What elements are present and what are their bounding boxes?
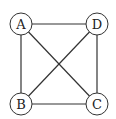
node-d-label: D [92,17,102,32]
node-c-label: C [92,97,102,112]
node-b-label: B [16,97,26,112]
node-c: C [86,93,108,115]
edges [21,24,97,104]
node-b: B [10,93,32,115]
node-a-label: A [15,17,26,32]
node-a: A [10,13,32,35]
node-d: D [86,13,108,35]
complete-graph-diagram: A D B C [0,0,116,119]
